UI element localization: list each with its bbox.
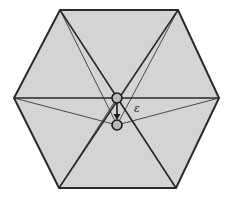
epsilon-label: ε <box>134 102 140 115</box>
diagram-canvas: ε <box>0 0 234 202</box>
point-p <box>112 93 122 103</box>
point-q <box>112 120 122 130</box>
hexagon-diagram: ε <box>0 0 234 202</box>
